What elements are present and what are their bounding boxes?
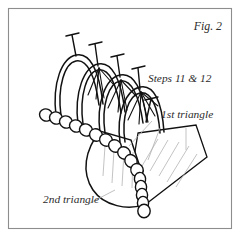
label-first-triangle: 1st triangle	[161, 108, 213, 120]
label-steps: Steps 11 & 12	[148, 72, 212, 84]
pin-3	[111, 54, 124, 77]
figure-caption: Fig. 2	[193, 19, 222, 33]
figure-illustration: Fig. 2 Steps 11 & 12 1st triangle 2nd tr…	[0, 0, 246, 237]
label-second-triangle: 2nd triangle	[43, 193, 99, 205]
bead-tip	[138, 204, 150, 218]
pin-4	[132, 66, 145, 89]
pin-1	[66, 33, 79, 56]
figure-canvas: Fig. 2 Steps 11 & 12 1st triangle 2nd tr…	[0, 0, 246, 237]
